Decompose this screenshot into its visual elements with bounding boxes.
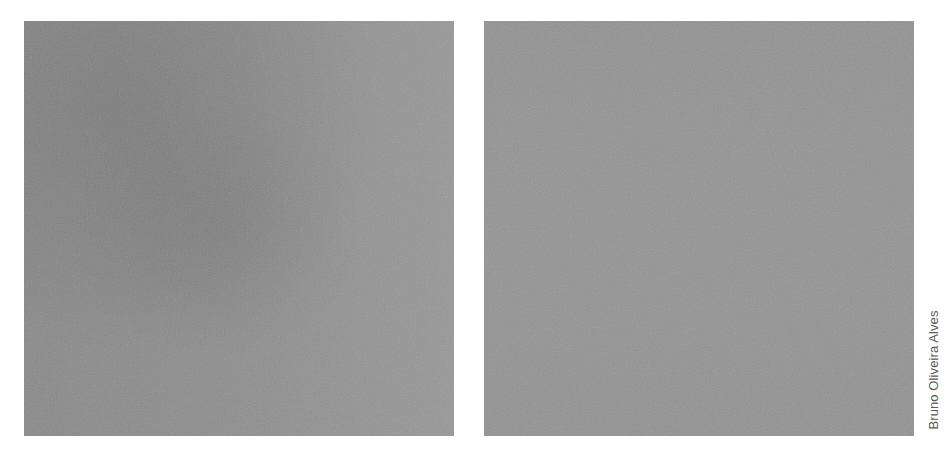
left-noise-panel [24, 21, 454, 436]
right-noise-panel [484, 21, 914, 436]
noise-texture-left [24, 21, 454, 436]
noise-texture-right [484, 21, 914, 436]
photo-credit: Bruno Oliveira Alves [926, 310, 941, 429]
